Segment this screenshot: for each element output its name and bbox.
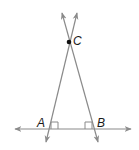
label-A: A [36,116,45,130]
geometry-diagram: C A B [0,0,139,150]
point-C [67,40,72,45]
right-angle-mark-A [51,122,58,129]
label-C: C [73,34,82,48]
right-angle-mark-B [85,122,92,129]
label-B: B [97,116,105,130]
line-through-B-and-C [62,13,98,142]
diagram-svg: C A B [0,0,139,150]
